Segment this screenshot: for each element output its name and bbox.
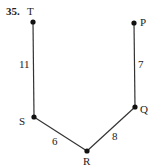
point-R [84, 148, 89, 153]
label-Q: Q [140, 103, 148, 115]
point-Q [132, 104, 137, 109]
segment-RQ [87, 107, 135, 151]
point-T [30, 19, 35, 24]
label-R: R [83, 155, 91, 167]
length-QP: 7 [138, 58, 144, 70]
point-S [31, 114, 36, 119]
path-diagram: 35. T P S R Q 11 6 8 7 [0, 0, 156, 168]
label-P: P [140, 16, 146, 28]
segment-TS [33, 22, 34, 117]
length-TS: 11 [19, 58, 30, 70]
segment-QP [134, 23, 135, 107]
length-SR: 6 [52, 135, 58, 147]
segment-SR [34, 117, 87, 151]
point-P [131, 20, 136, 25]
length-RQ: 8 [112, 130, 118, 142]
label-S: S [19, 115, 25, 127]
label-T: T [27, 5, 34, 17]
problem-number: 35. [6, 5, 20, 17]
